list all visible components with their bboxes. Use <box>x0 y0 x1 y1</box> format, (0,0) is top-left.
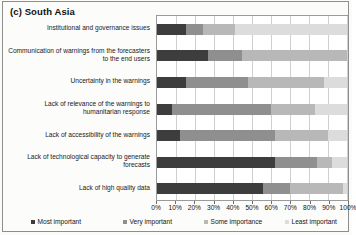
bar-segment[interactable] <box>324 77 347 88</box>
bar-segment[interactable] <box>157 130 180 141</box>
category-label: Communication of warnings from the forec… <box>7 47 150 63</box>
legend-item[interactable]: Least important <box>285 218 337 225</box>
legend-swatch-icon <box>285 220 289 224</box>
bar-segment[interactable] <box>172 104 271 115</box>
legend-swatch-icon <box>204 220 208 224</box>
x-axis-tick-label: 100% <box>340 204 356 211</box>
bar-segment[interactable] <box>186 24 203 35</box>
category-label: Uncertainty in the warnings <box>7 77 150 85</box>
x-axis-tick-label: 20% <box>188 204 201 211</box>
bar-segment[interactable] <box>180 130 275 141</box>
bar-segment[interactable] <box>271 104 315 115</box>
x-axis-tick-label: 70% <box>284 204 297 211</box>
category-label: Lack of high quality data <box>7 184 150 192</box>
bar-segment[interactable] <box>343 183 347 194</box>
stacked-bar[interactable] <box>157 104 347 115</box>
bar-row <box>157 183 347 194</box>
legend-item[interactable]: Some importance <box>204 218 262 225</box>
stacked-bar[interactable] <box>157 157 347 168</box>
category-label: Lack of relevance of the warnings to hum… <box>7 100 150 116</box>
stacked-bar[interactable] <box>157 130 347 141</box>
bar-row <box>157 77 347 88</box>
bar-segment[interactable] <box>263 183 290 194</box>
category-label: Institutional and governance issues <box>7 24 150 32</box>
stacked-bar[interactable] <box>157 77 347 88</box>
plot-area <box>156 15 348 201</box>
bar-segment[interactable] <box>157 157 275 168</box>
bar-segment[interactable] <box>275 130 328 141</box>
bar-segment[interactable] <box>235 24 347 35</box>
bar-segment[interactable] <box>203 24 235 35</box>
bar-segment[interactable] <box>157 24 186 35</box>
bar-segment[interactable] <box>186 77 249 88</box>
category-label: Lack of technological capacity to genera… <box>7 153 150 169</box>
bar-segment[interactable] <box>157 77 186 88</box>
bar-row <box>157 157 347 168</box>
bar-segment[interactable] <box>248 77 324 88</box>
x-axis-tick-label: 40% <box>226 204 239 211</box>
category-label: Lack of accessibility of the warnings <box>7 131 150 139</box>
category-axis-labels: Institutional and governance issuesCommu… <box>7 15 153 201</box>
bar-segment[interactable] <box>157 104 172 115</box>
legend-label: Least important <box>292 218 337 225</box>
x-axis-tick-label: 0% <box>151 204 161 211</box>
legend-swatch-icon <box>31 220 35 224</box>
x-axis-tick-label: 60% <box>265 204 278 211</box>
legend-swatch-icon <box>123 220 127 224</box>
legend-item[interactable]: Very important <box>123 218 172 225</box>
gridline <box>347 16 348 200</box>
legend-label: Very important <box>130 218 173 225</box>
stacked-bar[interactable] <box>157 183 347 194</box>
figure-frame: (c) South Asia Institutional and governa… <box>2 1 349 232</box>
bar-segment[interactable] <box>290 183 343 194</box>
bar-segment[interactable] <box>275 157 317 168</box>
bar-segment[interactable] <box>157 183 263 194</box>
x-axis-tick-label: 90% <box>322 204 335 211</box>
bar-row <box>157 24 347 35</box>
bar-segment[interactable] <box>317 157 332 168</box>
x-axis-tick-label: 10% <box>169 204 182 211</box>
bar-segment[interactable] <box>157 50 208 61</box>
chart-legend: Most importantVery importantSome importa… <box>31 218 331 232</box>
x-axis-tick-label: 80% <box>303 204 316 211</box>
bar-row <box>157 104 347 115</box>
bar-segment[interactable] <box>328 130 347 141</box>
x-axis-tick-label: 30% <box>207 204 220 211</box>
bar-row <box>157 130 347 141</box>
legend-item[interactable]: Most important <box>31 218 81 225</box>
stacked-bar[interactable] <box>157 50 347 61</box>
bar-segment[interactable] <box>242 50 347 61</box>
bar-segment[interactable] <box>315 104 347 115</box>
bar-segment[interactable] <box>208 50 242 61</box>
stacked-bar[interactable] <box>157 24 347 35</box>
x-axis: 0%10%20%30%40%50%60%70%80%90%100% <box>156 201 348 217</box>
bar-segment[interactable] <box>332 157 347 168</box>
bar-row <box>157 50 347 61</box>
bar-rows <box>157 16 347 200</box>
x-axis-tick-label: 50% <box>245 204 258 211</box>
legend-label: Some importance <box>211 218 263 225</box>
legend-label: Most important <box>38 218 82 225</box>
